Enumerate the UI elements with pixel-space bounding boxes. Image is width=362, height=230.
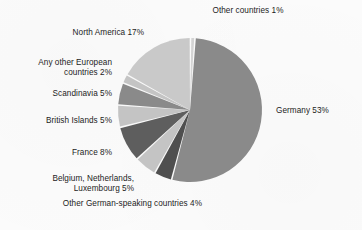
pie-label-british-islands: British Islands 5% (2, 116, 112, 126)
pie-label-scandinavia: Scandinavia 5% (6, 89, 112, 99)
pie-chart-figure: Other countries 1% North America 17% Any… (0, 0, 362, 230)
pie-label-other-german-speaking-countries: Other German-speaking countries 4% (2, 199, 202, 209)
pie-slice-group (118, 38, 262, 182)
pie-label-france: France 8% (14, 148, 112, 158)
pie-label-north-america: North America 17% (16, 28, 144, 38)
pie-label-germany: Germany 53% (276, 106, 362, 116)
pie-label-belgium-netherlands-luxembourg: Belgium, Netherlands, Luxembourg 5% (10, 174, 134, 194)
pie-label-other-countries: Other countries 1% (178, 6, 318, 16)
pie-label-any-other-european-countries: Any other European countries 2% (6, 58, 112, 78)
